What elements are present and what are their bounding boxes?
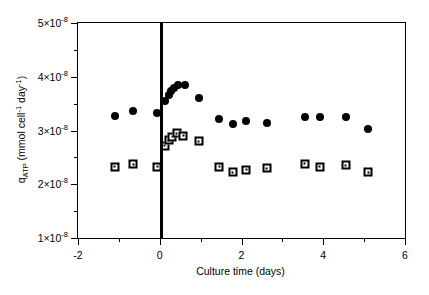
x-tick-label: 0 <box>157 249 163 260</box>
data-point-open-square <box>110 162 119 171</box>
x-tick-major <box>405 238 406 245</box>
data-point-filled-circle <box>301 113 309 121</box>
y-tick-label: 5×10-8 <box>38 18 68 29</box>
data-point-open-square <box>315 162 324 171</box>
y-axis-title-sup1: -1 <box>15 106 27 113</box>
y-tick-label-exponent: -8 <box>61 15 68 24</box>
y-tick-label: 4×10-8 <box>38 72 68 83</box>
y-tick-major <box>71 131 78 132</box>
y-tick-label: 3×10-8 <box>38 125 68 136</box>
y-axis-title-q: q <box>15 177 27 183</box>
y-tick-minor <box>74 50 78 51</box>
data-point-filled-circle <box>215 115 223 123</box>
data-point-filled-circle <box>364 125 372 133</box>
plot-area: 1×10-82×10-83×10-84×10-85×10-8-20246 <box>77 22 406 239</box>
x-tick-label: -2 <box>73 249 82 260</box>
figure-scatter-plot: 1×10-82×10-83×10-84×10-85×10-8-20246 Cul… <box>0 0 429 295</box>
data-point-filled-circle <box>229 120 237 128</box>
data-point-filled-circle <box>316 113 324 121</box>
data-point-open-square <box>228 168 237 177</box>
y-axis-title-sup2: -1 <box>15 79 27 86</box>
y-tick-label: 2×10-8 <box>38 179 68 190</box>
data-point-open-square <box>179 131 188 140</box>
data-point-open-square <box>364 168 373 177</box>
data-point-filled-circle <box>181 81 189 89</box>
x-tick-major <box>323 238 324 245</box>
y-tick-label-mantissa: 2×10 <box>38 178 62 190</box>
x-axis-title: Culture time (days) <box>77 265 404 277</box>
y-axis-title: qATP (mmol cell-1 day-1) <box>14 22 28 237</box>
data-point-filled-circle <box>111 112 119 120</box>
x-tick-minor <box>282 238 283 242</box>
y-tick-major <box>71 238 78 239</box>
data-point-open-square <box>341 161 350 170</box>
y-tick-label-exponent: -8 <box>61 177 68 186</box>
data-point-open-square <box>242 165 251 174</box>
data-point-filled-circle <box>242 117 250 125</box>
y-tick-label-mantissa: 1×10 <box>38 232 62 244</box>
data-point-filled-circle <box>342 113 350 121</box>
y-tick-label-exponent: -8 <box>61 123 68 132</box>
y-axis-title-mid: day <box>15 86 27 106</box>
data-point-filled-circle <box>263 119 271 127</box>
data-point-filled-circle <box>195 94 203 102</box>
y-tick-major <box>71 184 78 185</box>
x-tick-major <box>242 238 243 245</box>
y-tick-label-exponent: -8 <box>61 230 68 239</box>
y-tick-minor <box>74 104 78 105</box>
y-tick-label: 1×10-8 <box>38 233 68 244</box>
x-tick-label: 2 <box>239 249 245 260</box>
y-tick-label-exponent: -8 <box>61 69 68 78</box>
data-point-open-square <box>262 164 271 173</box>
x-tick-minor <box>201 238 202 242</box>
x-tick-major <box>160 238 161 245</box>
y-tick-minor <box>74 211 78 212</box>
x-tick-label: 6 <box>402 249 408 260</box>
data-point-open-square <box>129 160 138 169</box>
y-tick-minor <box>74 157 78 158</box>
data-point-open-square <box>300 159 309 168</box>
y-tick-label-mantissa: 4×10 <box>38 71 62 83</box>
x-tick-minor <box>364 238 365 242</box>
data-point-open-square <box>215 162 224 171</box>
y-tick-label-mantissa: 5×10 <box>38 17 62 29</box>
y-tick-major <box>71 23 78 24</box>
x-tick-label: 4 <box>320 249 326 260</box>
y-axis-title-units: (mmol cell <box>15 113 27 164</box>
data-point-filled-circle <box>129 107 137 115</box>
y-axis-title-close: ) <box>15 76 27 80</box>
y-tick-major <box>71 77 78 78</box>
data-point-open-square <box>194 137 203 146</box>
x-tick-major <box>78 238 79 245</box>
y-axis-title-subscript: ATP <box>21 163 30 177</box>
y-tick-label-mantissa: 3×10 <box>38 124 62 136</box>
x-tick-minor <box>119 238 120 242</box>
inoculation-divider <box>160 23 163 238</box>
